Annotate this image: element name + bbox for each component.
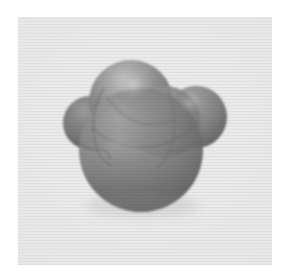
molecule-rendering [0,0,287,279]
right-sphere-highlight [179,94,201,112]
molecule-stage [0,0,287,279]
left-sphere-sheen [73,103,95,121]
top-sphere-highlight [116,71,150,97]
contact-shadow [87,194,199,218]
figure-canvas [0,0,287,279]
central-sphere-sheen [90,116,150,164]
